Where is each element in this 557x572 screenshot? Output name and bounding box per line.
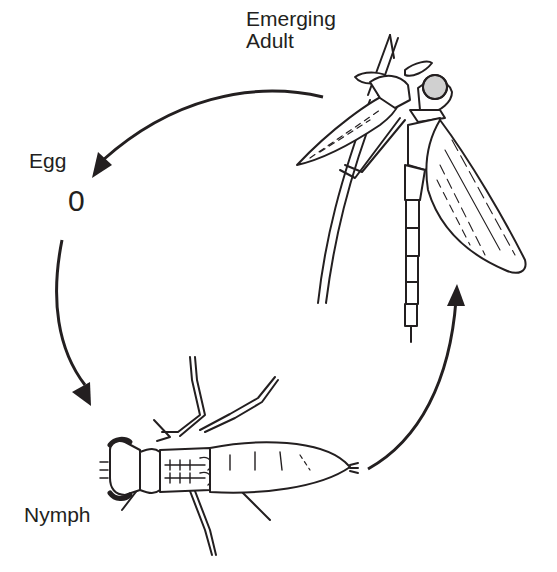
life-cycle-diagram: Emerging Adult Egg 0 Nymph — [0, 0, 557, 572]
arrow-adult-to-egg — [92, 91, 323, 178]
emerging-adult-illustration — [297, 35, 526, 342]
emerging-adult-label-line1: Emerging — [246, 8, 336, 30]
egg-label: Egg — [29, 150, 66, 172]
nymph-label: Nymph — [24, 504, 91, 526]
egg-symbol: 0 — [68, 186, 85, 216]
cycle-artwork — [0, 0, 557, 572]
emerging-adult-label-line2: Adult — [246, 30, 336, 52]
emerging-adult-label: Emerging Adult — [246, 8, 336, 52]
arrow-egg-to-nymph — [57, 240, 91, 406]
nymph-illustration — [100, 357, 358, 555]
